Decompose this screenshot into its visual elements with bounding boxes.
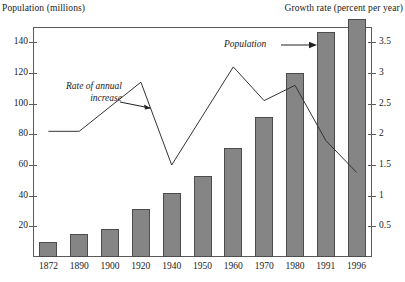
right-tick-label: 1.5 bbox=[379, 159, 391, 169]
left-tick-label: 60 bbox=[0, 159, 28, 169]
rate-annotation: Rate of annual increase bbox=[44, 80, 122, 104]
left-tick-label: 80 bbox=[0, 128, 28, 138]
population-growth-chart: Population (millions) Growth rate (perce… bbox=[0, 0, 405, 282]
right-tick-label: 2.5 bbox=[379, 98, 391, 108]
right-tick-label: 2 bbox=[379, 128, 384, 138]
right-tick-label: 1 bbox=[379, 190, 384, 200]
left-axis-title: Population (millions) bbox=[2, 3, 85, 13]
left-tick-label: 20 bbox=[0, 220, 28, 230]
right-tick-label: 3 bbox=[379, 67, 384, 77]
x-axis-label-1996: 1996 bbox=[337, 261, 377, 271]
rate-annotation-arrow-icon bbox=[120, 98, 160, 112]
growth-rate-line bbox=[33, 27, 372, 257]
right-tick-label: 0.5 bbox=[379, 220, 391, 230]
right-axis-title: Growth rate (percent per year) bbox=[284, 3, 403, 13]
population-annotation: Population bbox=[224, 38, 266, 50]
left-tick-label: 120 bbox=[0, 67, 28, 77]
rate-annotation-line2: increase bbox=[44, 92, 122, 104]
right-tick-label: 3.5 bbox=[379, 36, 391, 46]
left-tick-label: 100 bbox=[0, 98, 28, 108]
left-tick-label: 140 bbox=[0, 36, 28, 46]
rate-annotation-line1: Rate of annual bbox=[44, 80, 122, 92]
population-annotation-arrow-icon bbox=[281, 39, 325, 51]
left-tick-label: 40 bbox=[0, 190, 28, 200]
